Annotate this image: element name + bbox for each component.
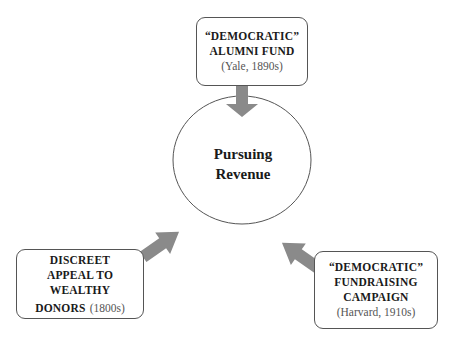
center-line-2: Revenue — [188, 164, 298, 184]
right-box-line-2: FUNDRAISING — [334, 275, 417, 290]
center-line-1: Pursuing — [188, 144, 298, 164]
center-label: Pursuing Revenue — [188, 144, 298, 184]
left-box-line-4-suffix: (1800s) — [90, 302, 125, 314]
left-box-discreet-appeal: DISCREET APPEAL TO WEALTHY DONORS (1800s… — [16, 249, 144, 319]
top-box-line-1: “DEMOCRATIC” — [205, 29, 299, 44]
right-box-line-3: CAMPAIGN — [343, 290, 408, 305]
right-box-line-1: “DEMOCRATIC” — [329, 260, 423, 275]
left-box-line-2: APPEAL TO — [47, 268, 113, 283]
top-box-line-2: ALUMNI FUND — [210, 44, 295, 59]
left-box-line-3: WEALTHY — [50, 283, 110, 298]
left-box-line-1: DISCREET — [50, 253, 110, 268]
left-box-line-4: DONORS — [35, 302, 85, 314]
right-box-harvard-campaign: “DEMOCRATIC” FUNDRAISING CAMPAIGN (Harva… — [314, 251, 438, 329]
top-box-line-3: (Yale, 1890s) — [221, 59, 282, 74]
right-box-line-4: (Harvard, 1910s) — [337, 305, 416, 320]
top-box-yale-alumni-fund: “DEMOCRATIC” ALUMNI FUND (Yale, 1890s) — [196, 17, 308, 86]
